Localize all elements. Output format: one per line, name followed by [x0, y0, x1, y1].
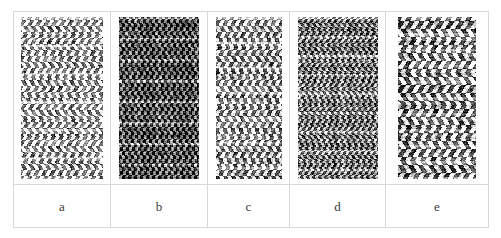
texture-panel-b [111, 12, 208, 184]
texture-image-b [119, 17, 199, 179]
panel-label-cell-d: d [290, 185, 386, 227]
panel-label-cell-b: b [111, 185, 208, 227]
texture-image-d [298, 17, 378, 179]
texture-image-c [216, 17, 282, 179]
panel-label-b: b [156, 200, 163, 213]
panel-label-cell-c: c [208, 185, 290, 227]
figure-table: abcde [13, 11, 489, 228]
texture-panel-e [386, 12, 488, 184]
texture-image-e [398, 17, 476, 179]
panel-label-c: c [246, 200, 252, 213]
panel-label-cell-e: e [386, 185, 488, 227]
figure-root: abcde [0, 0, 501, 238]
texture-image-a [21, 17, 103, 179]
panel-labels-row: abcde [14, 185, 488, 227]
texture-panel-c [208, 12, 290, 184]
texture-panel-a [14, 12, 111, 184]
texture-panel-d [290, 12, 386, 184]
texture-panels-row [14, 12, 488, 185]
panel-label-e: e [434, 200, 440, 213]
panel-label-a: a [59, 200, 65, 213]
panel-label-cell-a: a [14, 185, 111, 227]
panel-label-d: d [334, 200, 341, 213]
